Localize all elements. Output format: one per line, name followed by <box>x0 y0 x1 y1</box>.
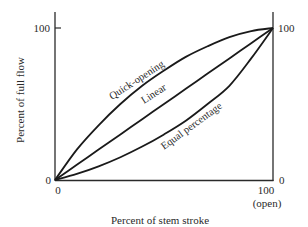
x-tick-0: 0 <box>55 184 61 196</box>
chart-canvas: Quick-opening Linear Equal percentage 10… <box>0 0 308 227</box>
y-left-tick-100: 100 <box>34 22 51 34</box>
y-axis-title: Percent of full flow <box>14 57 26 143</box>
x-axis-title: Percent of stem stroke <box>111 214 209 226</box>
valve-characteristics-chart: Quick-opening Linear Equal percentage 10… <box>0 0 308 227</box>
x-tick-100: 100 <box>258 184 275 196</box>
equal-percentage-label: Equal percentage <box>159 100 224 152</box>
y-right-tick-100: 100 <box>278 22 295 34</box>
linear-curve <box>55 28 273 180</box>
y-left-tick-0: 0 <box>46 174 52 186</box>
y-right-tick-0: 0 <box>279 174 285 186</box>
x-tick-100-sublabel: (open) <box>253 197 282 210</box>
